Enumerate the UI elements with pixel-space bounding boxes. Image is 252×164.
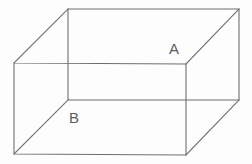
depth-edge-top-right	[186, 9, 239, 64]
cuboid-figure: A B	[0, 0, 252, 164]
depth-edge-bottom-left	[14, 100, 68, 154]
front-face-edges	[14, 63, 186, 155]
vertex-label-a: A	[169, 41, 179, 56]
vertex-label-b: B	[69, 110, 79, 125]
depth-edge-bottom-right	[186, 100, 239, 155]
back-face-edges	[68, 9, 239, 100]
depth-edge-top-left	[14, 9, 68, 63]
cuboid-wireframe-svg	[0, 0, 252, 164]
